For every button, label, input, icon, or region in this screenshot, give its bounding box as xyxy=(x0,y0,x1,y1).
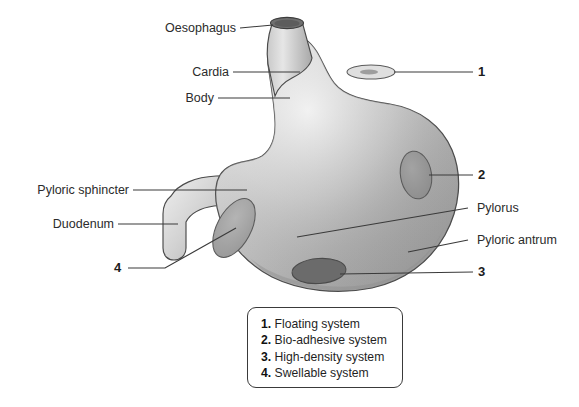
label-oesophagus: Oesophagus xyxy=(0,22,236,35)
legend-item-4-number: 4. xyxy=(261,366,271,380)
legend-item-1-number: 1. xyxy=(261,317,271,331)
legend-item-2-label: Bio-adhesive system xyxy=(275,333,387,347)
marker-number-2: 2 xyxy=(478,168,485,181)
legend-item-4-label: Swellable system xyxy=(275,366,369,380)
marker-number-3: 3 xyxy=(478,265,485,278)
oesophagus-lumen-inner xyxy=(275,20,300,27)
legend-item-3-label: High-density system xyxy=(275,350,385,364)
label-pylorus: Pylorus xyxy=(477,202,519,215)
legend-list: 1. Floating system 2. Bio-adhesive syste… xyxy=(248,308,402,382)
legend-item-4: 4. Swellable system xyxy=(261,365,402,381)
label-pyloric-antrum: Pyloric antrum xyxy=(477,234,557,247)
legend-item-2-number: 2. xyxy=(261,333,271,347)
marker-1-floating-inner xyxy=(360,69,378,74)
legend-item-2: 2. Bio-adhesive system xyxy=(261,332,402,348)
marker-number-1: 1 xyxy=(478,65,485,78)
legend-box: 1. Floating system 2. Bio-adhesive syste… xyxy=(247,307,403,388)
label-duodenum: Duodenum xyxy=(0,218,114,231)
label-body: Body xyxy=(0,92,214,105)
diagram-canvas: Oesophagus Cardia Body Pyloric sphincter… xyxy=(0,0,579,407)
label-cardia: Cardia xyxy=(0,66,229,79)
leader-oesophagus xyxy=(240,25,273,28)
legend-item-3: 3. High-density system xyxy=(261,349,402,365)
marker-number-4: 4 xyxy=(114,261,121,274)
legend-item-3-number: 3. xyxy=(261,350,271,364)
legend-item-1-label: Floating system xyxy=(275,317,360,331)
legend-item-1: 1. Floating system xyxy=(261,316,402,332)
label-pyloric-sphincter: Pyloric sphincter xyxy=(0,184,129,197)
